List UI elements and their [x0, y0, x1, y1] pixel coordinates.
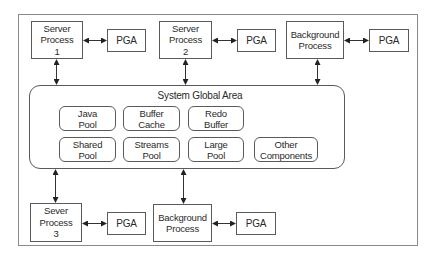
server-process-1-node: Server Process 1 [31, 21, 83, 59]
pga-3-node: PGA [369, 29, 409, 52]
other-components-node: Other Components [254, 137, 318, 162]
pga-1-node: PGA [107, 29, 146, 52]
shared-pool-node: Shared Pool [59, 137, 116, 162]
pga-5-node: PGA [236, 212, 276, 235]
background-process-2-node: Background Process [153, 204, 212, 242]
system-global-area-title: System Global Area [29, 90, 371, 102]
background-process-1-node: Background Process [286, 21, 344, 59]
buffer-cache-node: Buffer Cache [123, 106, 180, 131]
java-pool-node: Java Pool [59, 106, 116, 131]
server-process-3-node: Sever Process 3 [30, 203, 82, 242]
pga-4-node: PGA [107, 212, 146, 235]
server-process-2-node: Server Process 2 [159, 21, 212, 59]
large-pool-node: Large Pool [188, 137, 244, 162]
redo-buffer-node: Redo Buffer [188, 106, 244, 131]
pga-2-node: PGA [237, 29, 276, 52]
streams-pool-node: Streams Pool [123, 137, 180, 162]
